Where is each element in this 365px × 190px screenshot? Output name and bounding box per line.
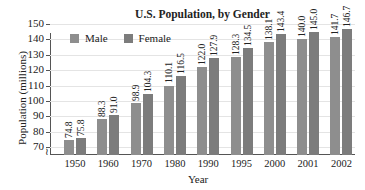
legend: Male Female xyxy=(70,32,171,44)
legend-swatch-female xyxy=(124,34,133,43)
bar-female-2000 xyxy=(276,34,286,155)
bar-female-1980 xyxy=(176,76,186,155)
y-tick xyxy=(46,147,50,148)
bar-female-1970 xyxy=(143,94,153,155)
bar-female-1990 xyxy=(209,58,219,155)
bar-female-1995 xyxy=(243,48,253,155)
value-label: 141.7 xyxy=(330,13,340,34)
x-tick-label: 1990 xyxy=(190,158,226,169)
value-label: 104.3 xyxy=(143,71,153,92)
x-tick-label: 1980 xyxy=(157,158,193,169)
legend-label-male: Male xyxy=(85,32,108,44)
value-label: 122.0 xyxy=(197,44,207,65)
y-tick-label: 140 xyxy=(18,33,44,44)
y-tick xyxy=(46,39,50,40)
y-tick-label: 150 xyxy=(18,18,44,29)
y-tick-label: 110 xyxy=(18,80,44,91)
x-tick-label: 1950 xyxy=(57,158,93,169)
bar-male-1960 xyxy=(97,119,107,155)
bar-female-2001 xyxy=(309,32,319,155)
value-label: 138.1 xyxy=(264,19,274,40)
y-tick-label: 70 xyxy=(18,141,44,152)
value-label: 98.9 xyxy=(131,84,141,101)
value-label: 145.0 xyxy=(309,8,319,29)
bar-male-1950 xyxy=(64,140,74,155)
bar-male-2000 xyxy=(264,42,274,155)
bar-male-1970 xyxy=(131,103,141,155)
x-tick-label: 2001 xyxy=(290,158,326,169)
bar-female-2002 xyxy=(342,29,352,155)
value-label: 116.5 xyxy=(176,53,186,74)
bar-male-2001 xyxy=(297,39,307,155)
value-label: 74.8 xyxy=(64,121,74,138)
value-label: 88.3 xyxy=(97,100,107,117)
bar-male-1995 xyxy=(231,57,241,155)
x-tick-label: 2000 xyxy=(257,158,293,169)
y-tick xyxy=(46,132,50,133)
y-tick-label: 80 xyxy=(18,126,44,137)
y-tick xyxy=(46,116,50,117)
y-tick xyxy=(46,70,50,71)
y-tick xyxy=(46,86,50,87)
bar-male-1980 xyxy=(164,86,174,156)
value-label: 128.3 xyxy=(231,34,241,55)
x-tick-label: 1960 xyxy=(90,158,126,169)
value-label: 134.5 xyxy=(243,25,253,46)
y-tick-label: 90 xyxy=(18,110,44,121)
bar-male-1990 xyxy=(197,67,207,155)
y-axis xyxy=(50,33,51,155)
y-tick-label: 130 xyxy=(18,49,44,60)
y-tick xyxy=(46,24,50,25)
y-tick-label: 100 xyxy=(18,95,44,106)
value-label: 110.1 xyxy=(164,62,174,83)
y-tick xyxy=(46,55,50,56)
value-label: 75.8 xyxy=(76,120,86,137)
value-label: 127.9 xyxy=(209,35,219,56)
x-axis-label: Year xyxy=(188,173,208,185)
legend-swatch-male xyxy=(70,34,79,43)
legend-label-female: Female xyxy=(139,32,171,44)
y-tick xyxy=(46,101,50,102)
bar-male-2002 xyxy=(330,37,340,155)
value-label: 140.0 xyxy=(297,16,307,37)
value-label: 143.4 xyxy=(276,11,286,32)
value-label: 146.7 xyxy=(342,6,352,27)
x-tick-label: 1970 xyxy=(124,158,160,169)
value-label: 91.0 xyxy=(109,96,119,113)
bar-female-1950 xyxy=(76,138,86,155)
bar-female-1960 xyxy=(109,115,119,155)
x-tick-label: 1995 xyxy=(224,158,260,169)
y-tick-label: 120 xyxy=(18,64,44,75)
x-tick-label: 2002 xyxy=(323,158,359,169)
